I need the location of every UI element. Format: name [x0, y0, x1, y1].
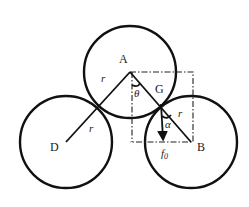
label-f0: f0 — [161, 147, 168, 161]
angle-theta-arc — [132, 83, 140, 86]
line-a-to-d — [66, 72, 130, 142]
label-a: A — [119, 52, 128, 66]
label-g: G — [155, 82, 164, 96]
label-theta: θ — [134, 87, 140, 99]
three-circles-diagram: A G D B r r r θ α f0 — [0, 0, 249, 207]
label-b: B — [197, 140, 205, 154]
label-r-lower-left: r — [89, 122, 94, 134]
label-alpha: α — [165, 118, 171, 130]
label-r-upper-left: r — [101, 72, 106, 84]
label-d: D — [50, 140, 59, 154]
label-r-right: r — [178, 107, 183, 119]
